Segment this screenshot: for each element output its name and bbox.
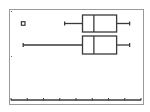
outlier-marker [21,22,25,26]
cursor-dot-left [11,56,12,57]
cursor-dot-top [11,11,12,12]
calculator-graph-screen [0,0,150,112]
